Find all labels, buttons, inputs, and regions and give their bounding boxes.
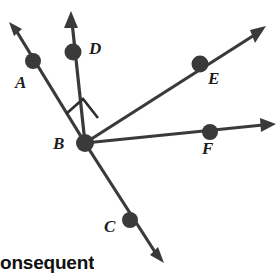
ray-be-arrowhead [250,26,266,43]
point-f-dot [202,124,218,140]
figure-canvas: A D E F C B onsequent [0,0,278,273]
point-c-dot [122,212,138,228]
ray-ba-arrowhead [9,22,22,36]
ray-bd-arrowhead [64,11,78,28]
ray-bc-line [85,143,155,252]
caption-partial-text: onsequent [0,252,94,273]
ray-be-line [85,34,256,143]
point-a-dot [25,53,41,69]
label-vertex-b: B [53,135,64,152]
ray-diagram-svg [0,0,278,273]
label-point-c: C [104,218,115,235]
ray-bf [85,118,276,143]
point-e-dot [192,56,209,73]
point-d-dot [65,44,82,61]
label-point-a: A [15,74,26,91]
ray-bc [85,143,164,263]
ray-bf-arrowhead [260,118,276,132]
ray-be [85,26,266,143]
label-point-d: D [89,40,101,57]
label-point-e: E [208,70,219,87]
vertex-b-dot [76,134,94,152]
label-point-f: F [202,140,213,157]
